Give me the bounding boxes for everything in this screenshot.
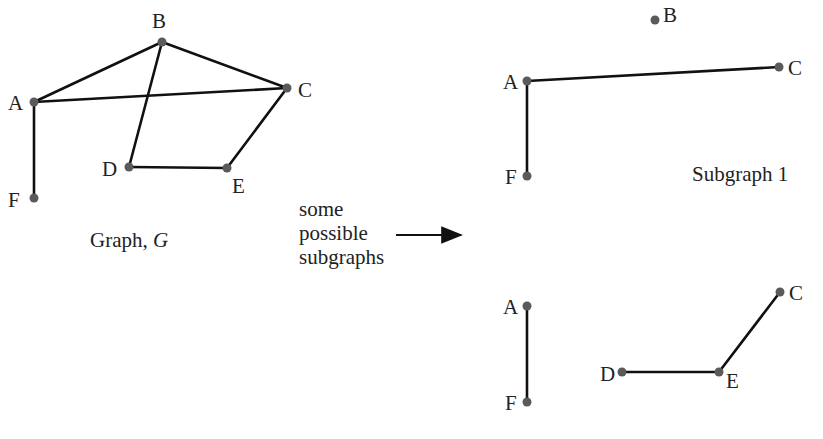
- node-c: [283, 84, 292, 93]
- node-a: [30, 98, 39, 107]
- label-b: B: [152, 9, 166, 33]
- arrow-caption-line-3: subgraphs: [299, 245, 384, 269]
- label-f: F: [505, 165, 517, 189]
- label-b: B: [663, 3, 677, 27]
- graph-caption-variable: G: [153, 228, 168, 252]
- arrow-caption: some possible subgraphs: [299, 197, 384, 269]
- label-f: F: [8, 188, 20, 212]
- node-d: [618, 368, 627, 377]
- arrow-caption-line-1: some: [299, 197, 384, 221]
- edge-b-d: [129, 42, 162, 167]
- label-e: E: [232, 174, 245, 198]
- node-e: [223, 164, 232, 173]
- node-a: [523, 302, 532, 311]
- subgraph-2: A F C D E: [503, 281, 803, 415]
- label-e: E: [726, 369, 739, 393]
- node-a: [523, 77, 532, 86]
- edge-d-e: [129, 167, 227, 168]
- label-d: D: [600, 362, 615, 386]
- main-graph: A B C D E F: [8, 9, 312, 212]
- edge-a-b: [34, 42, 162, 102]
- label-f: F: [505, 391, 517, 415]
- label-a: A: [8, 91, 24, 115]
- label-c: C: [788, 56, 802, 80]
- node-f: [523, 398, 532, 407]
- node-d: [125, 163, 134, 172]
- edge-e-c: [227, 88, 287, 168]
- graph-diagram: A B C D E F B A C F A F C D E: [0, 0, 823, 439]
- arrow-caption-line-2: possible: [299, 221, 384, 245]
- label-c: C: [789, 281, 803, 305]
- graph-caption: Graph, G: [90, 228, 168, 252]
- node-c: [775, 63, 784, 72]
- graph-caption-text: Graph,: [90, 228, 153, 252]
- node-b: [158, 38, 167, 47]
- edge-a-c: [527, 67, 779, 81]
- label-a: A: [503, 70, 519, 94]
- subgraph-1-caption: Subgraph 1: [692, 162, 788, 186]
- node-c: [776, 288, 785, 297]
- label-a: A: [503, 295, 519, 319]
- node-f: [523, 172, 532, 181]
- node-b: [651, 16, 660, 25]
- label-d: D: [102, 157, 117, 181]
- node-f: [30, 194, 39, 203]
- label-c: C: [298, 78, 312, 102]
- edge-e-c: [719, 292, 780, 372]
- node-e: [715, 368, 724, 377]
- edge-a-c: [34, 88, 287, 102]
- edge-b-c: [162, 42, 287, 88]
